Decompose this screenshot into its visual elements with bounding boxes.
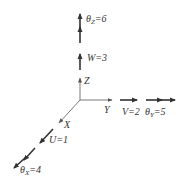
dof-diagram: θZ=6 W=3 Z Y V=2 θY=5 X U=1 θX=4 — [0, 0, 183, 184]
w-label: W=3 — [87, 53, 107, 63]
thetaz-label: θZ=6 — [86, 14, 107, 27]
thetax-label: θX=4 — [20, 165, 41, 178]
x-axis-label: X — [64, 120, 70, 130]
y-axis-label: Y — [104, 105, 110, 115]
z-axis-label: Z — [84, 76, 90, 86]
thetay-label: θY=5 — [145, 107, 166, 120]
diagram-graphics — [0, 0, 183, 184]
u-label: U=1 — [49, 135, 68, 145]
v-label: V=2 — [122, 107, 140, 117]
